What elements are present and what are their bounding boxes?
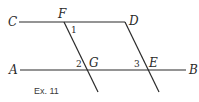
point-label-g: G (89, 56, 99, 70)
angle-label-2: 2 (76, 59, 82, 69)
point-label-b: B (188, 63, 198, 77)
point-label-f: F (57, 7, 67, 21)
point-label-a: A (8, 63, 18, 77)
geometry-diagram: C F D A G E B 1 2 3 Ex. 11 (0, 0, 199, 102)
point-label-d: D (128, 14, 139, 28)
point-label-c: C (8, 15, 17, 29)
point-label-e: E (148, 56, 158, 70)
angle-label-1: 1 (71, 25, 77, 35)
angle-label-3: 3 (134, 59, 140, 69)
exercise-caption: Ex. 11 (34, 86, 59, 96)
